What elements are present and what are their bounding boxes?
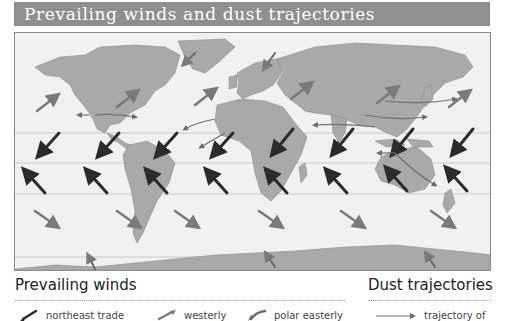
thin-arrow-icon xyxy=(374,309,418,321)
dust-trajectories-heading: Dust trajectories xyxy=(368,276,493,294)
legend-item-westerly: westerly xyxy=(156,308,226,321)
westerly-arrows-south xyxy=(35,211,451,225)
legend-label: polar easterly xyxy=(274,310,343,321)
legend-label: westerly xyxy=(184,310,226,321)
africa xyxy=(215,99,307,201)
legend-item-northeast-trade: northeast trade xyxy=(18,308,124,321)
legend-label: trajectory of xyxy=(424,310,485,321)
greenland xyxy=(178,39,235,73)
europe xyxy=(237,59,285,99)
prevailing-winds-heading: Prevailing winds xyxy=(15,276,137,294)
divider xyxy=(15,300,345,301)
continents xyxy=(15,39,491,271)
dark-arrow-icon xyxy=(18,309,40,321)
australia xyxy=(375,147,435,193)
legend-item-trajectory: trajectory of xyxy=(374,308,485,321)
world-map xyxy=(14,32,491,271)
divider xyxy=(368,300,492,301)
map-title: Prevailing winds and dust trajectories xyxy=(14,2,490,26)
world-map-graphic xyxy=(15,33,491,271)
legend-label: northeast trade xyxy=(46,310,124,321)
north-america xyxy=(35,45,180,133)
gray-arrow-icon xyxy=(156,309,178,321)
legend-item-polar-easterly: polar easterly xyxy=(246,308,343,321)
gray-arrow-icon xyxy=(246,309,268,321)
antarctica xyxy=(15,245,491,271)
asia xyxy=(277,43,473,137)
